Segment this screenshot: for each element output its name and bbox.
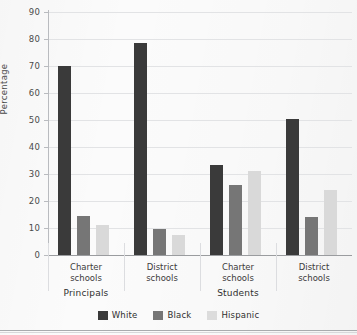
legend-label-black: Black [167,310,191,320]
group-label-students: Students [178,288,298,298]
y-tick-label-80: 80 [18,34,40,44]
bar-principals-charter-white [58,66,71,255]
chart-legend: White Black Hispanic [0,310,357,320]
category-label-line2: schools [279,273,349,284]
bar-principals-district-white [134,43,147,255]
bar-principals-charter-hispanic [96,225,109,255]
legend-swatch-white-icon [98,311,108,320]
category-label-line2: schools [51,273,121,284]
group-separator-1 [124,243,125,291]
bar-students-district-hispanic [324,190,337,255]
grouped-bar-chart: 90 80 70 60 50 40 30 20 10 0 Percentage … [0,0,357,335]
category-label-principals-charter: Charter schools [51,262,121,283]
y-tick-label-90: 90 [18,7,40,17]
category-label-principals-district: District schools [127,262,197,283]
category-label-line1: District [279,262,349,273]
category-label-line2: schools [203,273,273,284]
y-tick-label-30: 30 [18,169,40,179]
bar-principals-district-hispanic [172,235,185,255]
group-separator-left [48,243,49,291]
y-axis-title: Percentage [0,54,9,124]
bar-principals-charter-black [77,216,90,255]
category-label-line2: schools [127,273,197,284]
legend-item-black: Black [153,310,191,320]
category-label-line1: District [127,262,197,273]
y-tick-label-70: 70 [18,61,40,71]
page-bottom-rule [0,330,357,331]
category-label-line1: Charter [203,262,273,273]
bar-students-charter-hispanic [248,171,261,255]
bar-students-district-white [286,119,299,255]
category-label-line1: Charter [51,262,121,273]
legend-label-hispanic: Hispanic [221,310,259,320]
legend-item-hispanic: Hispanic [207,310,259,320]
group-label-principals: Principals [26,288,146,298]
y-tick-label-20: 20 [18,196,40,206]
y-tick-label-10: 10 [18,223,40,233]
bar-principals-district-black [153,229,166,255]
bar-students-charter-white [210,165,223,256]
y-tick-label-50: 50 [18,115,40,125]
group-separator-middle [200,243,201,291]
page-bottom-rule-2 [0,332,357,333]
bar-students-charter-black [229,185,242,255]
legend-swatch-hispanic-icon [207,311,217,320]
category-label-students-district: District schools [279,262,349,283]
y-tick-label-40: 40 [18,142,40,152]
y-tick-label-0: 0 [18,250,40,260]
y-tick-label-60: 60 [18,88,40,98]
group-separator-3 [276,243,277,291]
legend-item-white: White [98,310,138,320]
bar-students-district-black [305,217,318,255]
legend-swatch-black-icon [153,311,163,320]
bars-layer [48,12,352,255]
legend-label-white: White [112,310,138,320]
category-label-students-charter: Charter schools [203,262,273,283]
